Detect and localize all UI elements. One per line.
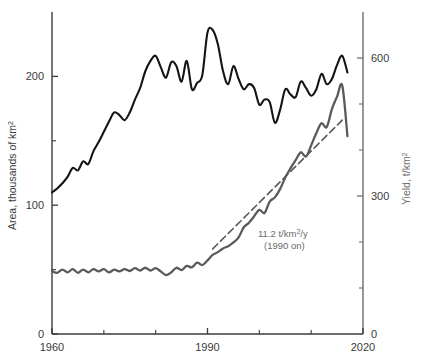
x-tick-label: 1990 [195,341,219,353]
left-tick-label: 100 [26,199,44,211]
series-line-area [52,28,347,193]
chart-svg: 0100200 0300600 196019902020 Area, thous… [0,0,425,358]
right-axis-ticks [357,58,363,334]
left-tick-label: 0 [38,328,44,340]
chart-container: 0100200 0300600 196019902020 Area, thous… [0,0,425,358]
axis-lines [52,12,363,334]
right-tick-label: 600 [371,52,389,64]
trend-rate-annotation: 11.2 t/km2/y (1990 on) [258,228,308,251]
trend-rate-line2: (1990 on) [264,240,305,251]
left-axis-title: Area, thousands of km2 [6,121,18,230]
left-tick-label: 200 [26,70,44,82]
left-axis-tick-labels: 0100200 [26,70,44,340]
bottom-axis-ticks [52,328,363,334]
right-tick-label: 0 [371,328,377,340]
right-axis-title: Yield, t/km2 [400,152,412,205]
trend-rate-line1: 11.2 t/km2/y [258,228,308,239]
x-tick-label: 1960 [40,341,64,353]
left-axis-ticks [52,76,58,334]
right-tick-label: 300 [371,190,389,202]
x-axis-tick-labels: 196019902020 [40,341,375,353]
x-tick-label: 2020 [351,341,375,353]
right-axis-tick-labels: 0300600 [371,52,389,340]
